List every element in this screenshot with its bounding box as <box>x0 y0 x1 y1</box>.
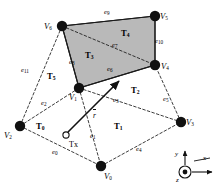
vertex-V0-dot <box>96 161 106 171</box>
face-label-T5: T5 <box>47 72 55 82</box>
edge-label-e6: e6 <box>107 66 112 73</box>
face-label-T1: T1 <box>114 122 122 132</box>
vertex-label-V0: V0 <box>104 172 112 181</box>
figure-canvas <box>0 0 219 193</box>
vertex-V5-dot <box>150 11 160 21</box>
coordinate-axes <box>179 151 212 178</box>
vertex-label-V6: V6 <box>44 22 52 31</box>
edge-label-e0: e0 <box>52 149 57 156</box>
face-label-T2: T2 <box>131 86 139 96</box>
edge-label-e3: e3 <box>113 97 118 104</box>
edge-e0-line <box>20 126 101 166</box>
edge-label-e2: e2 <box>41 100 46 107</box>
face-label-T3: T3 <box>85 51 93 61</box>
vertex-label-V5: V5 <box>160 12 168 21</box>
face-label-T4: T4 <box>121 29 129 39</box>
z-axis-out-of-page-dot <box>183 170 188 175</box>
edge-label-e10: e10 <box>155 38 163 45</box>
edge-e5-line <box>155 65 181 122</box>
vertex-label-V4: V4 <box>161 62 169 71</box>
sample-point-marker <box>63 132 69 138</box>
vertex-label-V3: V3 <box>186 118 194 127</box>
vertex-V3-dot <box>176 117 186 127</box>
edge-e4-line <box>101 122 181 166</box>
vertex-V6-dot <box>57 21 67 31</box>
vertex-V1-dot <box>74 83 84 93</box>
sample-point-label: Tx <box>69 141 78 149</box>
edge-label-e7: e7 <box>112 42 117 49</box>
vertex-label-V2: V2 <box>4 131 12 140</box>
vertex-V4-dot <box>150 60 160 70</box>
x-axis-label: x <box>203 155 206 162</box>
y-axis-label: y <box>175 151 178 158</box>
edge-label-e9: e9 <box>104 9 109 16</box>
face-label-T0: T0 <box>36 122 44 132</box>
edge-label-e8: e8 <box>69 59 74 66</box>
mesh-triangulation-figure: V6 V5 V4 V3 V2 V1 V0 T0 T1 T2 T3 T4 T5 e… <box>0 0 219 193</box>
vertex-V2-dot <box>15 121 25 131</box>
ray-vector-label: r <box>93 112 96 120</box>
edge-label-e11: e11 <box>21 67 29 74</box>
vertex-label-V1: V1 <box>69 93 77 102</box>
x-axis-upper-tick <box>194 158 210 161</box>
z-axis-label: z <box>176 177 179 184</box>
edge-e11-line <box>20 26 62 126</box>
edge-label-e1: e1 <box>90 133 95 140</box>
edge-label-e5: e5 <box>163 96 168 103</box>
edge-e1-line <box>79 88 101 166</box>
edge-label-e4: e4 <box>136 146 141 153</box>
